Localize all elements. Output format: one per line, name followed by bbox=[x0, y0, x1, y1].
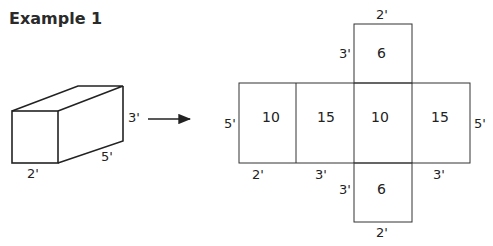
bottom-label-3: 3' bbox=[433, 168, 445, 181]
bottom-face-height-label: 3' bbox=[339, 183, 351, 196]
prism-width-label: 2' bbox=[27, 167, 39, 180]
net-right-height-label: 5' bbox=[474, 117, 486, 130]
bottom-face-area: 6 bbox=[377, 182, 386, 196]
bottom-label-1: 2' bbox=[252, 168, 264, 181]
face-area-1: 10 bbox=[262, 110, 280, 124]
face-area-4: 15 bbox=[431, 110, 449, 124]
prism-length-label: 5' bbox=[101, 150, 113, 163]
top-face-area: 6 bbox=[377, 46, 386, 60]
face-area-2: 15 bbox=[317, 110, 335, 124]
bottom-label-2: 3' bbox=[315, 168, 327, 181]
top-face-width-label: 2' bbox=[376, 8, 388, 21]
diagram-canvas bbox=[0, 0, 493, 246]
net-left-height-label: 5' bbox=[224, 117, 236, 130]
face-area-3: 10 bbox=[371, 110, 389, 124]
bottom-face-width-label: 2' bbox=[376, 226, 388, 239]
prism-height-label: 3' bbox=[128, 111, 140, 124]
top-face-height-label: 3' bbox=[339, 47, 351, 60]
